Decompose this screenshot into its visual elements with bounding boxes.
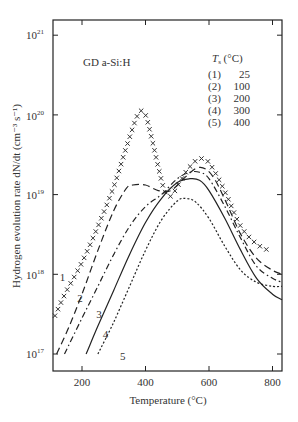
data-marker-x — [88, 243, 92, 247]
chart: 1021 1020 1019 1018 1017 200400600800 Te… — [0, 0, 298, 422]
data-marker-x — [264, 247, 268, 251]
curve-label-2: 2 — [77, 292, 83, 304]
data-marker-x — [217, 178, 221, 182]
data-marker-x — [157, 169, 161, 173]
data-marker-x — [123, 148, 127, 152]
data-marker-x — [247, 235, 251, 239]
legend-entry-label: 400 — [234, 116, 251, 128]
series-line-4 — [86, 178, 282, 354]
data-marker-x — [242, 229, 246, 233]
data-marker-x — [59, 300, 63, 304]
data-marker-x — [139, 109, 143, 113]
y-tick-label-1e18: 1018 — [26, 268, 45, 281]
legend-entry-label: 100 — [234, 80, 251, 92]
legend-entry-label: 300 — [234, 104, 251, 116]
data-marker-x — [238, 223, 242, 227]
legend-entry-id: (5) — [208, 116, 221, 129]
x-tick-label-400: 400 — [137, 376, 154, 388]
data-marker-x — [65, 287, 69, 291]
data-marker-x — [117, 169, 121, 173]
data-marker-x — [161, 183, 165, 187]
data-marker-x — [152, 148, 156, 152]
data-marker-x — [107, 196, 111, 200]
data-marker-x — [188, 164, 192, 168]
data-marker-x — [68, 281, 72, 285]
series-line-5 — [98, 198, 282, 354]
curve-label-5: 5 — [120, 350, 126, 362]
x-tick-label-600: 600 — [201, 376, 218, 388]
y-tick-labels: 1021 1020 1019 1018 1017 — [26, 28, 45, 360]
data-marker-x — [155, 162, 159, 166]
data-marker-x — [232, 210, 236, 214]
data-marker-x — [91, 236, 95, 240]
y-tick-label-1e17: 1017 — [26, 347, 45, 360]
data-marker-x — [130, 128, 134, 132]
data-marker-x — [210, 165, 214, 169]
data-marker-x — [151, 141, 155, 145]
data-marker-x — [206, 159, 210, 163]
data-marker-x — [102, 209, 106, 213]
data-marker-x — [96, 223, 100, 227]
data-marker-x — [85, 249, 89, 253]
data-marker-x — [258, 244, 262, 248]
data-marker-x — [75, 269, 79, 273]
series-group — [53, 109, 282, 354]
y-tick-label-1e19: 1019 — [26, 188, 45, 201]
data-marker-x — [125, 141, 129, 145]
data-marker-x — [110, 189, 114, 193]
legend: Ts (°C) (1)25(2)100(3)200(4)300(5)400 — [208, 52, 251, 129]
data-marker-x — [173, 189, 177, 193]
data-marker-x — [168, 194, 172, 198]
data-marker-x — [105, 203, 109, 207]
data-marker-x — [135, 114, 139, 118]
data-marker-x — [121, 155, 125, 159]
y-tick-label-1e21: 1021 — [26, 28, 45, 41]
curve-label-3: 3 — [96, 308, 102, 320]
data-marker-x — [213, 171, 217, 175]
y-tick-label-1e20: 1020 — [26, 109, 45, 122]
legend-title: Ts (°C) — [212, 52, 243, 66]
data-marker-x — [94, 229, 98, 233]
data-marker-x — [235, 217, 239, 221]
legend-entry-label: 25 — [239, 68, 251, 80]
x-tick-labels: 200400600800 — [74, 376, 282, 388]
curve-label-4: 4 — [103, 328, 109, 340]
x-axis-title: Temperature (°C) — [129, 394, 207, 407]
sample-annotation: GD a-Si:H — [83, 56, 130, 68]
data-marker-x — [226, 197, 230, 201]
data-marker-x — [159, 176, 163, 180]
data-marker-x — [62, 294, 66, 298]
data-marker-x — [112, 183, 116, 187]
data-marker-x — [147, 127, 151, 131]
curve-label-1: 1 — [60, 271, 66, 283]
data-marker-x — [115, 176, 119, 180]
data-marker-x — [79, 262, 83, 266]
data-marker-x — [252, 240, 256, 244]
data-marker-x — [149, 134, 153, 138]
data-marker-x — [193, 159, 197, 163]
legend-entry-label: 200 — [234, 92, 251, 104]
data-marker-x — [154, 155, 158, 159]
data-marker-x — [56, 307, 60, 311]
data-marker-x — [72, 275, 76, 279]
data-marker-x — [199, 156, 203, 160]
data-marker-x — [220, 184, 224, 188]
x-tick-label-200: 200 — [74, 376, 91, 388]
y-axis-title: Hydrogen evolution rate dN/dt (cm⁻³ s⁻¹) — [10, 104, 23, 288]
data-marker-x — [223, 191, 227, 195]
data-marker-x — [82, 256, 86, 260]
data-marker-x — [128, 135, 132, 139]
x-tick-label-800: 800 — [264, 376, 281, 388]
data-marker-x — [144, 113, 148, 117]
data-marker-x — [146, 120, 150, 124]
data-marker-x — [99, 216, 103, 220]
data-marker-x — [119, 162, 123, 166]
data-marker-x — [229, 204, 233, 208]
data-marker-x — [132, 121, 136, 125]
